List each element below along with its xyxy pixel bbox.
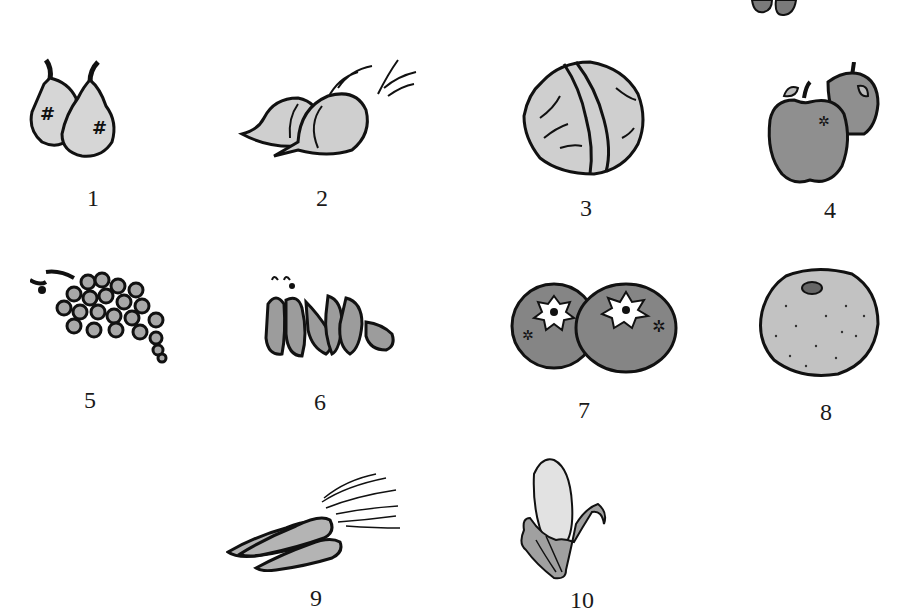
onion-icon: [238, 58, 418, 162]
item-number-2: 2: [302, 186, 342, 210]
pear-icon: # #: [28, 58, 120, 162]
pea-pod-icon: [262, 274, 402, 360]
item-number-4: 4: [810, 198, 850, 222]
svg-text:#: #: [92, 117, 107, 138]
apple-icon: ✲: [764, 62, 880, 188]
corn-icon: [516, 454, 612, 584]
svg-text:✲: ✲: [522, 327, 534, 343]
item-number-9: 9: [296, 586, 336, 610]
svg-text:✲: ✲: [818, 113, 830, 129]
carrot-icon: [226, 472, 402, 572]
orange-icon: ✲ ✲: [508, 282, 678, 376]
svg-text:#: #: [40, 103, 55, 124]
svg-text:✲: ✲: [652, 317, 665, 336]
grapes-icon: [30, 268, 170, 364]
item-number-6: 6: [300, 390, 340, 414]
cropped-fruit-illustration: [750, 0, 810, 22]
item-number-5: 5: [70, 388, 110, 412]
item-number-1: 1: [73, 186, 113, 210]
item-number-3: 3: [566, 196, 606, 220]
item-number-10: 10: [562, 588, 602, 612]
item-number-8: 8: [806, 400, 846, 424]
cabbage-icon: [520, 58, 650, 182]
melon-icon: [756, 266, 882, 380]
item-number-7: 7: [564, 398, 604, 422]
